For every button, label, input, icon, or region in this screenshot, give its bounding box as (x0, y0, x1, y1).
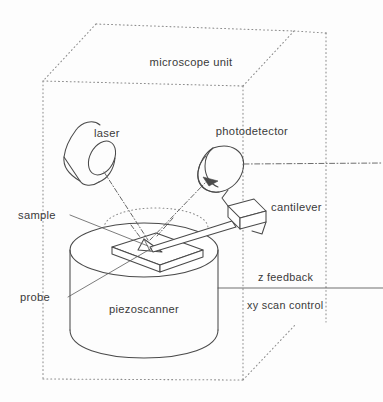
afm-schematic-diagram: microscope unit laser photodetector (0, 0, 383, 402)
cantilever-assembly: cantilever (150, 190, 322, 252)
diagram-canvas: microscope unit laser photodetector (0, 0, 383, 402)
cantilever-label: cantilever (271, 201, 322, 213)
cube-bottom-front-edge (43, 379, 243, 380)
cantilever-holder-upper-arm (222, 190, 228, 206)
cube-top-left-edge (43, 24, 96, 81)
laser-source: laser (64, 122, 121, 185)
photodetector-input-arrowhead (203, 177, 218, 186)
photodetector-unit: photodetector (198, 125, 288, 192)
cube-top-front-edge (43, 81, 243, 86)
microscope-unit-label: microscope unit (150, 56, 233, 68)
probe-label: probe (20, 291, 50, 303)
piezoscanner-bottom-arc (70, 330, 218, 358)
photodetector-label: photodetector (216, 125, 288, 137)
cube-top-back-edge (96, 24, 294, 31)
xy-scan-control-label: xy scan control (247, 299, 324, 311)
sample-label: sample (18, 209, 56, 221)
cube-top-right-edge (294, 31, 326, 33)
cube-bottom-diagonal-edge (243, 324, 296, 380)
laser-label: laser (94, 127, 120, 139)
detector-signal-line (244, 163, 383, 164)
laser-aperture-rim (99, 158, 115, 182)
z-feedback-label: z feedback (258, 271, 314, 283)
piezoscanner-label: piezoscanner (109, 303, 179, 315)
cube-top-front-right-edge (243, 31, 294, 86)
